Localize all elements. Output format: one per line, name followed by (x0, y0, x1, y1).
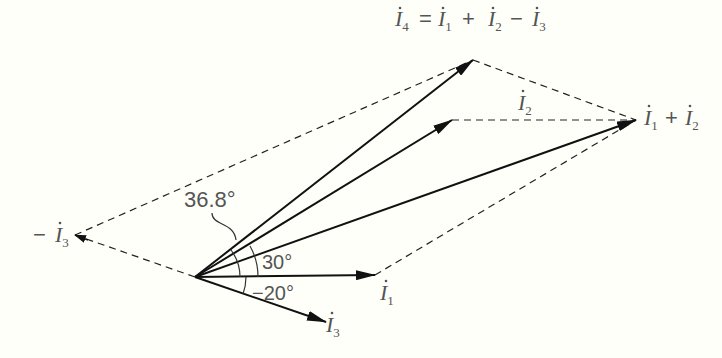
angle-label-36-8: 36.8° (184, 187, 236, 212)
vector-i4 (195, 60, 473, 277)
plus-sign: + (462, 6, 475, 31)
i1-symbol: I1 (437, 6, 452, 34)
svg-text:I1: I1 (643, 105, 658, 133)
svg-text:I3: I3 (54, 222, 69, 250)
vector-i1 (195, 275, 375, 277)
angle-label-30: 30° (262, 251, 292, 273)
construction-lines (75, 60, 636, 277)
leader-36-8 (212, 213, 236, 240)
equals-sign: = (419, 6, 432, 31)
svg-text:I2: I2 (517, 90, 532, 118)
i2-symbol: I2 (487, 6, 502, 34)
label-i4-equation: I4 = I1 + I2 − I3 (394, 6, 546, 34)
dash-origin-to-minus-i3 (75, 235, 195, 277)
label-i1: I1 (379, 280, 394, 308)
label-minus-i3: − I3 (33, 222, 69, 250)
i4-symbol: I4 (394, 6, 409, 34)
dash-i4-to-i1plusi2 (473, 60, 636, 120)
label-i2: I2 (517, 90, 532, 118)
angle-label-minus-20: −20° (252, 282, 294, 304)
phasor-diagram: I4 = I1 + I2 − I3 I1 + I2 I2 I1 I3 − I3 … (0, 0, 722, 358)
arc-30 (250, 246, 258, 277)
minus-sign: − (510, 6, 523, 31)
i3-symbol: I3 (531, 6, 546, 34)
label-i3: I3 (325, 312, 340, 340)
svg-text:−: − (33, 222, 46, 247)
svg-text:+: + (665, 105, 678, 130)
vector-minus-i3-head (75, 235, 88, 240)
svg-text:I3: I3 (325, 312, 340, 340)
svg-text:I2: I2 (684, 105, 699, 133)
label-i1-plus-i2: I1 + I2 (643, 105, 699, 133)
dash-minus-i3-to-i4 (75, 60, 473, 235)
svg-text:I1: I1 (379, 280, 394, 308)
arc-minus-20 (243, 277, 246, 294)
